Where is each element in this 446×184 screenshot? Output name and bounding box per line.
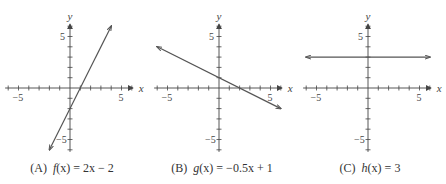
caption-c-label: (C) <box>340 161 356 175</box>
caption-c-arg: (x) <box>368 161 382 175</box>
x-tick-label: −5 <box>13 92 24 103</box>
x-tick-label: −5 <box>162 92 173 103</box>
function-graphs: −555−5xy−555−5xy−555−5xy <box>0 0 446 184</box>
caption-b-rhs: = −0.5x + 1 <box>213 161 272 175</box>
x-axis-label: x <box>436 82 442 94</box>
caption-a-rhs: = 2x − 2 <box>70 161 114 175</box>
x-tick-label: 5 <box>417 92 422 103</box>
y-tick-label: 5 <box>358 31 363 42</box>
x-tick-label: 5 <box>268 92 273 103</box>
y-tick-label: −5 <box>354 134 365 145</box>
x-tick-label: 5 <box>119 92 124 103</box>
y-axis-label: y <box>67 10 73 22</box>
caption-c: (C) h(x) = 3 <box>340 161 401 176</box>
x-tick-label: −5 <box>311 92 322 103</box>
x-axis-label: x <box>287 82 293 94</box>
y-tick-label: 5 <box>60 31 65 42</box>
y-axis-label: y <box>216 10 222 22</box>
graph-panel-a: −555−5xy <box>5 10 144 152</box>
y-tick-label: 5 <box>209 31 214 42</box>
caption-b-label: (B) <box>171 161 187 175</box>
y-tick-label: −5 <box>56 134 67 145</box>
caption-a: (A) f(x) = 2x − 2 <box>30 161 114 176</box>
caption-b-arg: (x) <box>199 161 213 175</box>
y-tick-label: −5 <box>205 134 216 145</box>
caption-c-rhs: = 3 <box>382 161 401 175</box>
y-axis-label: y <box>365 10 371 22</box>
graph-panel-b: −555−5xy <box>154 10 293 152</box>
graph-panel-c: −555−5xy <box>303 10 442 152</box>
caption-b: (B) g(x) = −0.5x + 1 <box>171 161 272 176</box>
caption-a-arg: (x) <box>56 161 70 175</box>
caption-a-label: (A) <box>30 161 47 175</box>
x-axis-label: x <box>138 82 144 94</box>
